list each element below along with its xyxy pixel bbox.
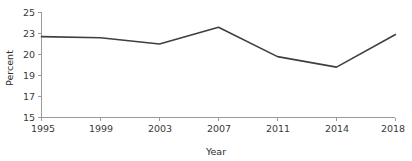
x-tick-label: 2011 [266, 123, 290, 134]
y-tick-label: 17 [23, 91, 35, 102]
x-tick-label: 1999 [89, 123, 113, 134]
y-tick-label: 23 [23, 28, 35, 39]
chart-background [0, 0, 412, 161]
y-tick-label: 25 [23, 7, 35, 18]
y-tick-label: 15 [23, 112, 35, 123]
line-chart: Percent Year 15 17 19 20 23 25 [0, 0, 412, 161]
y-axis-title: Percent [4, 50, 15, 86]
x-axis-title: Year [205, 146, 226, 157]
chart-canvas: Percent Year 15 17 19 20 23 25 [0, 0, 412, 161]
x-tick-label: 2007 [207, 123, 231, 134]
y-tick-label: 20 [23, 49, 35, 60]
x-tick-label: 2003 [148, 123, 172, 134]
x-tick-label: 2018 [381, 123, 405, 134]
y-tick-label: 19 [23, 70, 35, 81]
x-tick-label: 2014 [325, 123, 349, 134]
x-tick-label: 1995 [31, 123, 55, 134]
